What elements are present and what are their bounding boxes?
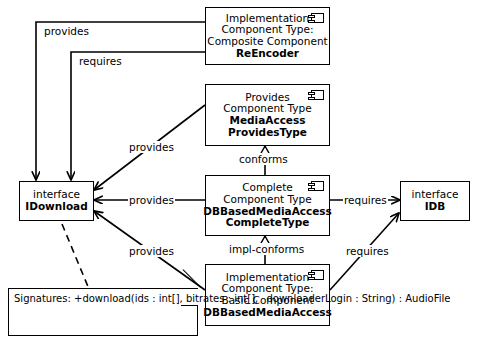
node-line-4: ProvidesType bbox=[228, 127, 307, 139]
edge-label-basic-implconforms: impl-conforms bbox=[228, 243, 305, 255]
component-icon bbox=[311, 181, 324, 191]
note-right-edge bbox=[197, 305, 198, 335]
complete-component-type-dbbasedmediaaccess[interactable]: Complete Component Type DBBasedMediaAcce… bbox=[205, 175, 330, 236]
edge-label-basic-provides: provides bbox=[128, 245, 175, 257]
note-line-1: Signatures: bbox=[14, 293, 71, 304]
edge-idownload-note-link bbox=[62, 224, 89, 289]
edge-label-complete-provides: provides bbox=[128, 194, 175, 206]
edge-label-complete-conforms: conforms bbox=[238, 153, 289, 165]
node-line-4: DBBasedMediaAccess bbox=[203, 307, 332, 319]
note-fold-base bbox=[181, 305, 198, 306]
edge-label-mediaaccess-provides: provides bbox=[128, 141, 175, 153]
provides-component-type-mediaaccess[interactable]: Provides Component Type MediaAccess Prov… bbox=[205, 84, 330, 146]
component-icon bbox=[311, 13, 324, 23]
node-line-3: MediaAccess bbox=[230, 115, 306, 127]
node-line-4: CompleteType bbox=[226, 217, 310, 229]
node-line-1: Complete bbox=[242, 182, 293, 194]
edge-reencoder-provides-idownload bbox=[36, 22, 205, 180]
edge-label-reencoder-requires: requires bbox=[78, 55, 123, 67]
note-line-3: downloaderLogin : String) : AudioFile bbox=[261, 293, 450, 304]
component-icon bbox=[311, 90, 324, 100]
uml-component-diagram: Implementation Component Type: Composite… bbox=[0, 0, 486, 347]
node-line-4: ReEncoder bbox=[236, 48, 299, 60]
implementation-composite-component-reencoder[interactable]: Implementation Component Type: Composite… bbox=[205, 7, 330, 65]
interface-idb[interactable]: interface IDB bbox=[400, 181, 470, 221]
signatures-note[interactable]: Signatures: +download(ids : int[], bitra… bbox=[8, 288, 198, 336]
component-icon bbox=[311, 270, 324, 280]
node-line-3: Composite Component bbox=[207, 36, 327, 48]
node-line-2: IDownload bbox=[25, 201, 87, 213]
node-line-2: Component Type bbox=[223, 194, 311, 206]
interface-idownload[interactable]: interface IDownload bbox=[19, 181, 94, 221]
node-line-2: IDB bbox=[425, 201, 446, 213]
note-line-2: +download(ids : int[], bitrates : int[], bbox=[74, 293, 258, 304]
edge-label-reencoder-provides: provides bbox=[43, 25, 90, 37]
edge-label-basic-requires: requires bbox=[345, 245, 390, 257]
edge-reencoder-requires-idownload bbox=[71, 52, 205, 180]
edge-label-complete-requires: requires bbox=[343, 194, 388, 206]
